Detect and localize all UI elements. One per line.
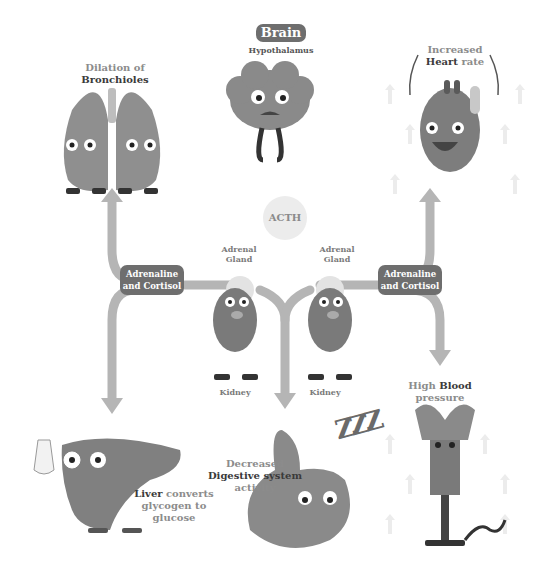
blood-pressure-label: High Blood pressure [400,380,480,404]
kidney-left-label: Kidney [215,387,255,397]
adrenal-right-line1: Adrenal [312,244,362,254]
acth-label: ACTH [263,212,307,224]
heart-label-bold: Heart [426,56,458,67]
blood-pressure-illustration [415,404,505,546]
brain-illustration [226,61,314,160]
stomach-label-line3: activity [200,482,310,494]
hormone-badge-left: Adrenaline and Cortisol [120,265,184,295]
lungs-label-bold: Bronchioles [81,74,148,85]
liver-label-line2: glycogen to [134,500,214,512]
hormone-badge-right: Adrenaline and Cortisol [378,265,442,295]
adrenal-right-line2: Gland [312,254,362,264]
lungs-illustration [64,88,160,194]
heart-illustration [410,55,499,172]
hormone-badge-right-line2: and Cortisol [378,280,442,292]
hormone-badge-left-line1: Adrenaline [120,268,184,280]
lungs-label-line1: Dilation of [70,62,160,74]
stomach-label-bold: Digestive system [208,470,302,481]
liver-label-line3: glucose [134,512,214,524]
adrenal-left-line2: Gland [214,254,264,264]
blood-label-line1: High [408,380,439,391]
liver-label-bold: Liver [134,488,162,499]
heart-label: Increased Heart rate [410,44,500,68]
hormone-badge-right-line1: Adrenaline [378,268,442,280]
kidney-right-illustration [308,276,352,380]
adrenal-gland-right-label: Adrenal Gland [312,244,362,264]
heart-label-line1: Increased [410,44,500,56]
kidney-right-label: Kidney [305,387,345,397]
brain-badge: Brain [256,24,306,42]
lungs-label: Dilation of Bronchioles [70,62,160,86]
adrenal-gland-left-label: Adrenal Gland [214,244,264,264]
blood-label-line2: pressure [400,392,480,404]
stomach-label: Decreased Digestive system activity [200,458,310,494]
liver-label-rest: converts [163,488,214,499]
blood-label-bold: Blood [439,380,472,391]
kidney-left-illustration [213,276,258,380]
liver-label: Liver converts glycogen to glucose [134,488,214,524]
heart-label-rest: rate [458,56,484,67]
hypothalamus-label: Hypothalamus [246,45,316,55]
hormone-badge-left-line2: and Cortisol [120,280,184,292]
adrenal-left-line1: Adrenal [214,244,264,254]
stomach-label-line1: Decreased [200,458,310,470]
